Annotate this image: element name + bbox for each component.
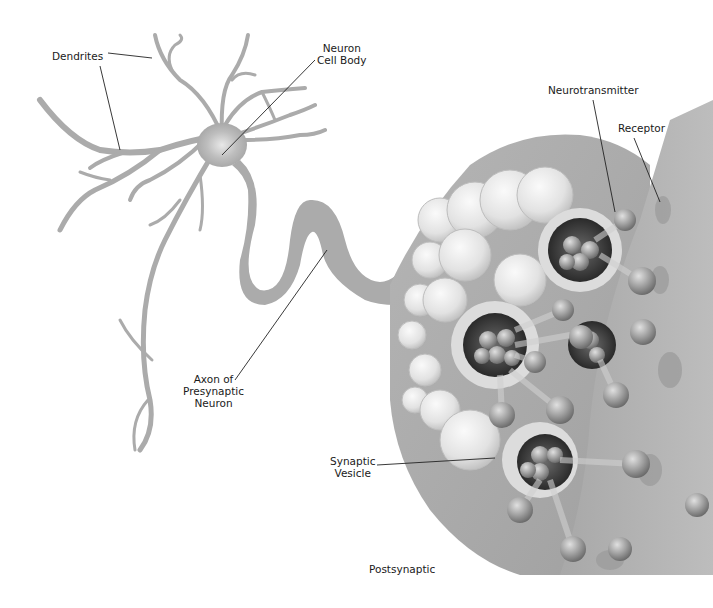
label-axon: Axon of Presynaptic Neuron — [183, 373, 244, 409]
label-postsynaptic: Postsynaptic — [369, 563, 435, 575]
label-dendrites: Dendrites — [52, 50, 103, 62]
label-receptor: Receptor — [618, 122, 665, 134]
label-neuron-cell-body: Neuron Cell Body — [317, 42, 366, 66]
label-neurotransmitter: Neurotransmitter — [548, 84, 639, 96]
label-synaptic-vesicle: Synaptic Vesicle — [330, 455, 375, 479]
